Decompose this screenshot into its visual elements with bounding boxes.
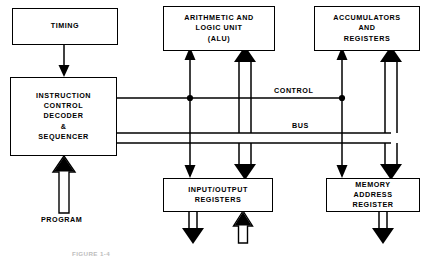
label-bus: BUS bbox=[290, 121, 311, 130]
label-control: CONTROL bbox=[272, 86, 315, 95]
block-alu-line-2: (ALU) bbox=[208, 34, 230, 44]
block-alu[interactable]: ARITHMETIC AND LOGIC UNIT (ALU) bbox=[163, 6, 275, 51]
block-diagram-canvas: TIMING ARITHMETIC AND LOGIC UNIT (ALU) A… bbox=[0, 0, 431, 259]
block-instruction-line-3: & bbox=[61, 122, 67, 132]
block-memory-address-register[interactable]: MEMORY ADDRESS REGISTER bbox=[326, 178, 420, 212]
block-accumulators-line-0: ACCUMULATORS bbox=[333, 13, 400, 23]
wire-mar-output bbox=[372, 212, 394, 244]
block-accumulators-line-2: REGISTERS bbox=[344, 34, 391, 44]
block-alu-line-1: LOGIC UNIT bbox=[195, 23, 242, 33]
block-accumulators-line-1: AND bbox=[358, 23, 375, 33]
block-instruction-control-decoder-sequencer[interactable]: INSTRUCTION CONTROL DECODER & SEQUENCER bbox=[10, 77, 117, 156]
wire-io-external-input bbox=[234, 211, 253, 243]
block-input-output-registers[interactable]: INPUT/OUTPUT REGISTERS bbox=[163, 178, 273, 212]
block-io-line-0: INPUT/OUTPUT bbox=[188, 185, 248, 195]
block-accumulators-and-registers[interactable]: ACCUMULATORS AND REGISTERS bbox=[314, 6, 420, 51]
block-instruction-line-4: SEQUENCER bbox=[38, 132, 88, 142]
wire-program-input bbox=[53, 156, 75, 213]
block-mar-line-2: REGISTER bbox=[352, 200, 393, 210]
block-io-line-1: REGISTERS bbox=[195, 195, 242, 205]
block-timing-line-0: TIMING bbox=[51, 21, 79, 31]
block-timing[interactable]: TIMING bbox=[12, 8, 118, 45]
block-mar-line-1: ADDRESS bbox=[354, 190, 393, 200]
wire-timing-to-instruction bbox=[59, 45, 70, 77]
block-alu-line-0: ARITHMETIC AND bbox=[184, 13, 253, 23]
wire-control-bus bbox=[117, 47, 348, 178]
wire-data-bus bbox=[117, 46, 402, 180]
block-instruction-line-0: INSTRUCTION bbox=[36, 91, 91, 101]
block-mar-line-0: MEMORY bbox=[355, 180, 390, 190]
block-instruction-line-2: DECODER bbox=[44, 111, 84, 121]
block-instruction-line-1: CONTROL bbox=[44, 101, 83, 111]
wire-io-output bbox=[182, 212, 204, 244]
label-program: PROGRAM bbox=[39, 215, 84, 224]
